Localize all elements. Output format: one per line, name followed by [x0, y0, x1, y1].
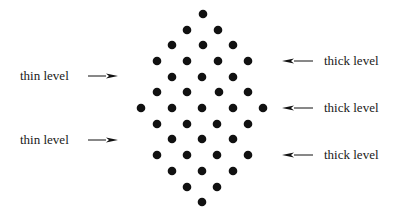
arrow-right-icon	[88, 73, 118, 78]
lattice-dot	[244, 88, 253, 97]
lattice-dot	[183, 151, 192, 160]
lattice-dot	[198, 73, 207, 82]
lattice-dot	[229, 104, 238, 113]
lattice-dot	[213, 183, 222, 192]
lattice-dot	[168, 73, 177, 82]
arrow-left-icon	[282, 152, 313, 157]
lattice-dot	[214, 26, 223, 35]
lattice-dot	[198, 135, 207, 144]
lattice-dot	[153, 88, 162, 97]
lattice-dot	[198, 198, 207, 207]
lattice-dot	[214, 57, 223, 66]
right-label-thick-level-middle: thick level	[324, 101, 379, 115]
lattice-dot	[153, 151, 162, 160]
lattice-dot	[259, 104, 268, 113]
lattice-dot	[229, 73, 238, 82]
lattice-dot	[229, 135, 238, 144]
lattice-dot	[168, 167, 177, 176]
lattice-dot	[153, 120, 162, 129]
right-label-thick-level-bottom: thick level	[324, 148, 379, 162]
lattice-dot	[215, 88, 224, 97]
lattice-dot	[183, 57, 192, 66]
dot-lattice	[137, 10, 268, 207]
lattice-dot	[213, 120, 222, 129]
lattice-dot	[198, 104, 207, 113]
lattice-dot	[213, 151, 222, 160]
lattice-dot	[183, 183, 192, 192]
arrow-left-icon	[282, 105, 313, 110]
left-label-thin-level-top: thin level	[20, 69, 69, 83]
lattice-dot	[199, 10, 208, 19]
lattice-dot	[183, 88, 192, 97]
lattice-dot	[168, 104, 177, 113]
lattice-dot	[168, 135, 177, 144]
lattice-dot	[244, 120, 253, 129]
lattice-dot	[183, 26, 192, 35]
arrow-left-icon	[282, 58, 313, 63]
lattice-dot	[199, 41, 208, 50]
lattice-dot	[153, 57, 162, 66]
lattice-dot	[244, 151, 253, 160]
arrow-right-icon	[88, 137, 118, 142]
lattice-dot	[168, 41, 177, 50]
left-label-thin-level-bottom: thin level	[20, 133, 69, 147]
lattice-dot	[229, 41, 238, 50]
lattice-dot	[198, 167, 207, 176]
lattice-dot	[244, 57, 253, 66]
lattice-dot	[137, 104, 146, 113]
right-label-thick-level-top: thick level	[324, 54, 379, 68]
lattice-dot	[229, 167, 238, 176]
lattice-dot	[183, 120, 192, 129]
